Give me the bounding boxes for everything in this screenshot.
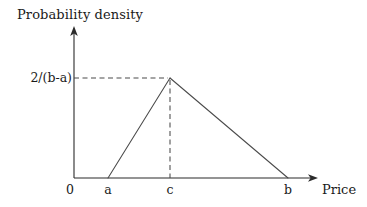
x-axis-title: Price	[322, 182, 356, 197]
y-axis-tick-label-peak: 2/(b-a)	[4, 70, 72, 85]
x-axis-origin-label: 0	[62, 183, 78, 197]
plot-canvas	[0, 0, 367, 207]
density-falling-limb	[170, 78, 288, 178]
x-axis-tick-label-a: a	[100, 183, 116, 197]
triangular-distribution-figure: Probability density 2/(b-a) 0 a c b Pric…	[0, 0, 367, 207]
x-axis-tick-label-b: b	[280, 183, 296, 197]
y-axis-title: Probability density	[17, 7, 143, 22]
density-rising-limb	[108, 78, 170, 178]
x-axis-tick-label-c: c	[162, 183, 178, 197]
